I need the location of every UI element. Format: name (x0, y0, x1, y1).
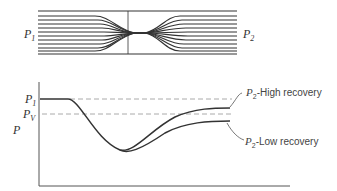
outlet-pressure-label: P2 (243, 28, 254, 43)
low-recovery-curve (120, 121, 230, 151)
reference-lines (42, 99, 232, 114)
pressure-curves (40, 99, 230, 151)
pv-axis-label: PV (23, 108, 35, 123)
high-recovery-label: P2-High recovery (246, 87, 322, 100)
y-axis-label: P (13, 124, 20, 136)
inlet-pressure-label: P1 (24, 28, 35, 43)
low-recovery-label: P2-Low recovery (245, 136, 318, 149)
high-recovery-curve (40, 99, 230, 150)
orifice-flow-diagram (38, 11, 237, 54)
